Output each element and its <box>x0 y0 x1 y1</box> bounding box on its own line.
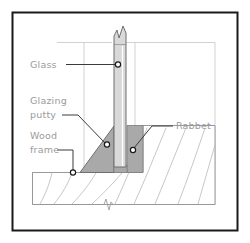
marker-wood-frame <box>70 170 75 175</box>
marker-glazing-putty <box>104 142 109 147</box>
label-glazing-putty-line-2: putty <box>30 109 56 120</box>
label-wood-frame-line-2: frame <box>30 144 59 155</box>
marker-rabbet <box>130 147 135 152</box>
diagram-root: Glass Glazing putty Rabbet Wood frame <box>0 0 250 243</box>
label-rabbet: Rabbet <box>176 120 211 131</box>
glass-pane <box>114 26 126 167</box>
marker-glass <box>115 62 120 67</box>
label-glass: Glass <box>30 59 57 70</box>
window-glazing-cross-section-figure: Glass Glazing putty Rabbet Wood frame <box>0 0 250 243</box>
label-wood-frame-line-1: Wood <box>30 130 57 141</box>
label-glazing-putty-line-1: Glazing <box>30 95 67 106</box>
